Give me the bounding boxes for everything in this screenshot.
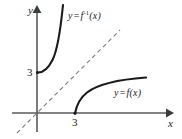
function-equation-label: y=f(x) — [114, 88, 141, 98]
inverse-label-argument: (x) — [89, 10, 101, 21]
x-axis-tick-label-3: 3 — [72, 117, 78, 128]
inverse-function-curve — [38, 5, 64, 73]
y-axis-tick-label-3: 3 — [27, 67, 33, 78]
y-intercept-point — [36, 71, 39, 74]
identity-line-dashed — [17, 30, 120, 133]
x-axis-label: x — [168, 118, 173, 129]
function-label-argument: (x) — [129, 87, 141, 98]
x-intercept-point — [74, 112, 77, 115]
function-label-y: y — [114, 87, 119, 98]
inverse-label-y: y — [68, 10, 73, 21]
y-axis-label: y — [28, 5, 33, 16]
y-axis-arrowhead — [33, 5, 42, 13]
inverse-function-equation-label: y=f-1(x) — [68, 11, 101, 21]
function-inverse-graph: y x 3 3 y=f-1(x) y=f(x) — [0, 0, 182, 139]
